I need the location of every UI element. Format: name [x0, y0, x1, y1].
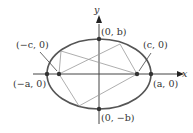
covertex-bottom-label: (0, −b): [101, 113, 135, 123]
focus-right-leader: [139, 53, 151, 71]
vertex-left-label: (−a, 0): [13, 79, 46, 89]
ellipse-diagram: y x (0, b) (0, −b) (−c, 0) (c, 0) (−a, 0…: [0, 0, 193, 133]
focus-left-label: (−c, 0): [16, 40, 49, 50]
vertex-right-label: (a, 0): [153, 79, 178, 89]
reflection-rays: [59, 44, 137, 106]
x-axis-label: x: [182, 69, 187, 79]
focus-right-label: (c, 0): [143, 40, 168, 50]
covertex-top-label: (0, b): [101, 27, 127, 37]
y-axis-label: y: [94, 5, 99, 15]
y-axis-arrow-icon: [96, 15, 102, 23]
ellipse-figure: [0, 0, 193, 133]
